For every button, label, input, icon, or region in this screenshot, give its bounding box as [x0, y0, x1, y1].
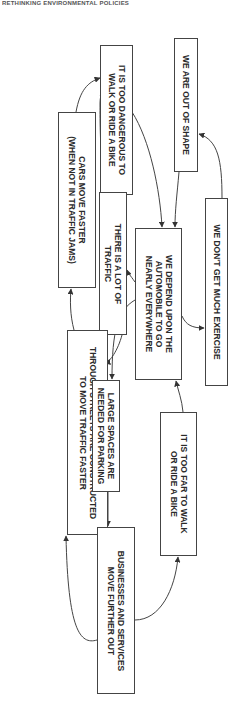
node-too-dangerous: IT IS TOO DANGEROUS TO WALK OR RIDE A BI…: [100, 45, 133, 195]
node-too-far: IT IS TOO FAR TO WALK OR RIDE A BIKE: [160, 412, 197, 556]
node-businesses-out: BUSINESSES AND SERVICES MOVE FURTHER OUT: [97, 527, 135, 694]
node-depend-automobile: WE DEPEND UPON THE AUTOMOBILE TO GO NEAR…: [135, 228, 182, 380]
node-large-spaces: LARGE SPACES ARE NEEDED FOR PARKING: [92, 380, 120, 492]
node-cars-faster: CARS MOVE FASTER (WHEN NOT IN TRAFFIC JA…: [58, 112, 96, 288]
node-no-exercise: WE DON'T GET MUCH EXERCISE: [205, 198, 228, 386]
node-lot-of-traffic: THERE IS A LOT OF TRAFFIC: [99, 192, 127, 335]
node-out-of-shape: WE ARE OUT OF SHAPE: [174, 38, 198, 172]
